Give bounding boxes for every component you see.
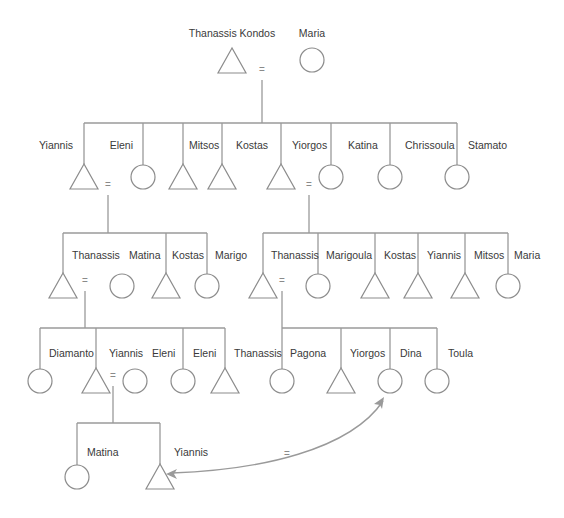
person-stamato-2 (445, 165, 469, 189)
person-label: Thanassis (271, 249, 319, 261)
female-circle-icon (425, 369, 449, 393)
marriage-equals-symbol: = (82, 275, 88, 286)
person-kostas-2 (208, 164, 236, 189)
marriage-equals-symbol: = (105, 179, 111, 190)
person-yiorgos-2 (267, 164, 295, 189)
marriage-equals-symbol: = (259, 64, 265, 75)
male-triangle-icon (327, 368, 355, 393)
person-label: Yiorgos (350, 347, 385, 359)
male-triangle-icon (211, 368, 239, 393)
kinship-diagram: Thanassis KondosMariaYiannisEleniMitsosK… (0, 0, 564, 518)
female-circle-icon (378, 165, 402, 189)
male-triangle-icon (218, 48, 246, 73)
person-thanassis-3a (49, 273, 77, 298)
male-triangle-icon (208, 164, 236, 189)
person-chrissoula-2 (378, 165, 402, 189)
female-circle-icon (496, 274, 520, 298)
person-label: Maria (299, 27, 325, 39)
person-label: Katina (348, 139, 378, 151)
female-circle-icon (306, 274, 330, 298)
female-circle-icon (195, 274, 219, 298)
person-yiannis-3 (404, 273, 432, 298)
female-circle-icon (300, 48, 324, 72)
male-triangle-icon (146, 464, 174, 489)
double-arrow-curve (172, 401, 383, 473)
person-label: Stamato (468, 139, 507, 151)
person-maria-1 (300, 48, 324, 72)
person-label: Eleni (193, 347, 216, 359)
person-toula-4 (425, 369, 449, 393)
person-label: Yiorgos (292, 139, 327, 151)
person-label: Mitsos (189, 139, 219, 151)
female-circle-icon (319, 165, 343, 189)
person-label: Thanassis (234, 347, 282, 359)
marriage-equals-symbol: = (279, 275, 285, 286)
person-mitsos-2 (169, 164, 197, 189)
person-label: Pagona (290, 347, 326, 359)
person-dina-4 (378, 369, 402, 393)
male-triangle-icon (169, 164, 197, 189)
male-triangle-icon (152, 273, 180, 298)
person-label: Yiannis (39, 139, 73, 151)
person-kostas-3a (152, 273, 180, 298)
male-triangle-icon (361, 273, 389, 298)
person-label: Thanassis Kondos (189, 27, 275, 39)
person-thanassis-4 (211, 368, 239, 393)
female-circle-icon (445, 165, 469, 189)
person-mitsos-3 (451, 273, 479, 298)
male-triangle-icon (49, 273, 77, 298)
person-katina-2 (319, 165, 343, 189)
marriage-equals-symbol: = (306, 179, 312, 190)
female-circle-icon (110, 274, 134, 298)
female-circle-icon (171, 369, 195, 393)
person-kostas-3b (361, 273, 389, 298)
person-eleni-2 (131, 165, 155, 189)
person-label: Toula (448, 347, 473, 359)
male-triangle-icon (249, 273, 277, 298)
person-label: Eleni (110, 139, 133, 151)
person-label: Diamanto (49, 347, 94, 359)
person-label: Kostas (236, 139, 268, 151)
person-marigoula-3 (306, 274, 330, 298)
person-label: Marigo (215, 249, 247, 261)
female-circle-icon (65, 465, 89, 489)
descent-lines (40, 80, 508, 465)
person-label: Matina (87, 446, 119, 458)
person-yiannis-5 (146, 464, 174, 489)
person-label: Yiannis (109, 347, 143, 359)
person-matina-5 (65, 465, 89, 489)
person-eleni-4a (123, 369, 147, 393)
marriage-equals-symbol: = (284, 448, 290, 459)
person-label: Kostas (384, 249, 416, 261)
person-label: Chrissoula (405, 139, 455, 151)
person-label: Dina (400, 347, 422, 359)
female-circle-icon (28, 369, 52, 393)
person-label: Kostas (172, 249, 204, 261)
person-thanassis-3b (249, 273, 277, 298)
person-thanassis-kondos (218, 48, 246, 73)
male-triangle-icon (82, 368, 110, 393)
person-label: Maria (514, 249, 540, 261)
male-triangle-icon (451, 273, 479, 298)
marriage-link-arrow (166, 397, 384, 479)
person-diamanto-4 (28, 369, 52, 393)
person-label: Yiannis (427, 249, 461, 261)
person-matina-3 (110, 274, 134, 298)
person-label: Matina (129, 249, 161, 261)
person-yiannis-4 (82, 368, 110, 393)
female-circle-icon (131, 165, 155, 189)
person-label: Mitsos (474, 249, 504, 261)
person-label: Marigoula (326, 249, 372, 261)
person-maria-3 (496, 274, 520, 298)
male-triangle-icon (404, 273, 432, 298)
person-label: Thanassis (72, 249, 120, 261)
male-triangle-icon (267, 164, 295, 189)
male-triangle-icon (70, 164, 98, 189)
person-label: Yiannis (174, 446, 208, 458)
person-pagona-4 (270, 369, 294, 393)
person-yiannis-2 (70, 164, 98, 189)
person-marigo-3 (195, 274, 219, 298)
female-circle-icon (270, 369, 294, 393)
person-yiorgos-4 (327, 368, 355, 393)
person-label: Eleni (152, 347, 175, 359)
